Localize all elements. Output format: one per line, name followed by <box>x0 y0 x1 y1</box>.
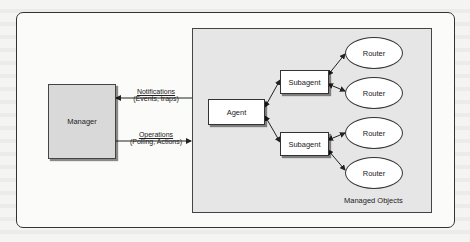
router-label: Router <box>363 129 386 138</box>
subagent-top-router2-link <box>328 84 345 91</box>
router-label: Router <box>363 169 386 178</box>
notifications-title: Notifications <box>126 88 186 95</box>
agent-subagent-top-link <box>265 80 280 107</box>
router-node-1: Router <box>345 37 403 69</box>
subagent-bottom-router4-link <box>328 150 345 170</box>
operations-subtitle: (Polling, Actions) <box>120 138 192 145</box>
agent-subagent-bottom-link <box>265 116 280 142</box>
agent-node: Agent <box>208 99 265 125</box>
router-node-4: Router <box>345 157 403 189</box>
notifications-subtitle: (Events, traps) <box>126 95 186 102</box>
router-label: Router <box>363 49 386 58</box>
subagent-top-router1-link <box>328 54 345 75</box>
managed-objects-label: Managed Objects <box>344 196 403 205</box>
manager-node: Manager <box>48 84 116 159</box>
notifications-label: Notifications (Events, traps) <box>126 88 186 102</box>
agent-label: Agent <box>227 108 247 117</box>
router-node-2: Router <box>345 77 403 109</box>
subagent-node-bottom: Subagent <box>280 132 329 156</box>
router-label: Router <box>363 89 386 98</box>
subagent-bottom-router3-link <box>328 133 345 140</box>
manager-label: Manager <box>67 117 97 126</box>
subagent-label: Subagent <box>288 140 320 149</box>
subagent-node-top: Subagent <box>280 70 329 94</box>
router-node-3: Router <box>345 117 403 149</box>
subagent-label: Subagent <box>288 78 320 87</box>
operations-title: Operations <box>120 131 192 138</box>
operations-label: Operations (Polling, Actions) <box>120 131 192 145</box>
